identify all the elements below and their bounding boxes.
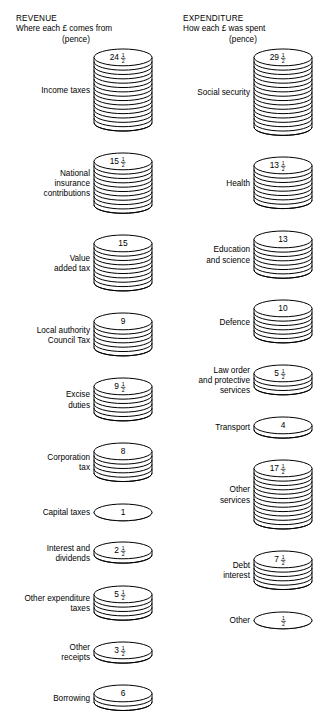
svg-text:24: 24: [110, 52, 120, 62]
expenditure-header: EXPENDITURE How each £ was spent (pence): [183, 14, 333, 45]
svg-text:15: 15: [118, 239, 128, 249]
coin-stack: 12: [252, 609, 312, 635]
coin-stack: 2912: [252, 46, 312, 141]
revenue-header: REVENUE Where each £ comes from (pence): [16, 14, 166, 45]
category-label: Law order and protective services: [172, 366, 250, 397]
coin-stack: 15: [92, 232, 152, 297]
expenditure-column: 2912Social security1312Health13Education…: [170, 46, 330, 648]
category-label: Other: [172, 616, 250, 626]
coin-stack: 912: [92, 375, 152, 427]
category-label: Excise duties: [8, 390, 90, 410]
coin-stack: 4: [252, 414, 312, 444]
category-label: Defence: [172, 318, 250, 328]
coin-stack: 1512: [92, 150, 152, 219]
category-label: Value added tax: [8, 254, 90, 274]
svg-text:1: 1: [121, 507, 126, 517]
coin-stack: 1712: [252, 457, 312, 535]
svg-text:2: 2: [122, 58, 125, 64]
expenditure-unit: (pence): [183, 35, 303, 45]
svg-text:17: 17: [270, 464, 280, 474]
svg-text:2: 2: [122, 387, 125, 393]
category-label: Health: [172, 179, 250, 189]
revenue-column: 2412Income taxes1512National insurance c…: [2, 46, 162, 715]
svg-text:2: 2: [122, 595, 125, 601]
coin-stack: 6: [92, 682, 152, 715]
svg-text:13: 13: [270, 161, 280, 171]
coin-stack: 1312: [252, 154, 312, 215]
svg-text:2: 2: [122, 551, 125, 557]
coin-stack: 13: [252, 228, 312, 284]
category-label: Social security: [172, 88, 250, 98]
coin-stack: 312: [92, 639, 152, 669]
category-label: Transport: [172, 423, 250, 433]
svg-text:4: 4: [281, 420, 286, 430]
category-label: Capital taxes: [8, 508, 90, 518]
svg-text:5: 5: [274, 369, 279, 379]
svg-text:13: 13: [278, 234, 288, 244]
svg-text:2: 2: [122, 162, 125, 168]
svg-text:8: 8: [121, 446, 126, 456]
svg-text:29: 29: [270, 52, 280, 62]
svg-text:6: 6: [121, 688, 126, 698]
svg-text:9: 9: [121, 317, 126, 327]
category-label: Debt interest: [172, 561, 250, 581]
svg-text:9: 9: [114, 382, 119, 392]
svg-text:2: 2: [114, 546, 119, 556]
svg-text:2: 2: [282, 560, 285, 566]
svg-text:2: 2: [282, 621, 285, 627]
coin-stack: 8: [92, 440, 152, 488]
svg-text:2: 2: [122, 651, 125, 657]
expenditure-subtitle: How each £ was spent: [183, 24, 333, 34]
svg-text:7: 7: [274, 555, 279, 565]
category-label: Other services: [172, 485, 250, 505]
category-label: Income taxes: [8, 86, 90, 96]
category-label: National insurance contributions: [8, 169, 90, 200]
revenue-title: REVENUE: [16, 14, 166, 24]
category-label: Education and science: [172, 245, 250, 265]
svg-text:2: 2: [282, 469, 285, 475]
revenue-unit: (pence): [16, 35, 136, 45]
revenue-subtitle: Where each £ comes from: [16, 24, 166, 34]
svg-text:3: 3: [114, 645, 119, 655]
category-label: Corporation tax: [8, 453, 90, 473]
svg-text:10: 10: [278, 304, 288, 314]
coin-stack: 10: [252, 297, 312, 349]
svg-text:2: 2: [282, 374, 285, 380]
coin-stack: 512: [252, 362, 312, 401]
expenditure-title: EXPENDITURE: [183, 14, 333, 24]
coin-stack: 212: [92, 539, 152, 569]
category-label: Other expenditure taxes: [8, 594, 90, 614]
category-label: Other receipts: [8, 643, 90, 663]
category-label: Local authority Council Tax: [8, 326, 90, 346]
coin-stack: 512: [92, 583, 152, 626]
svg-text:2: 2: [282, 58, 285, 64]
category-label: Borrowing: [8, 694, 90, 704]
coin-stack: 1: [92, 501, 152, 527]
category-label: Interest and dividends: [8, 544, 90, 564]
coin-stack: 712: [252, 548, 312, 596]
svg-text:5: 5: [114, 589, 119, 599]
coin-stack: 9: [92, 310, 152, 362]
coin-stack: 2412: [92, 46, 152, 137]
svg-text:2: 2: [282, 166, 285, 172]
svg-text:15: 15: [110, 156, 120, 166]
